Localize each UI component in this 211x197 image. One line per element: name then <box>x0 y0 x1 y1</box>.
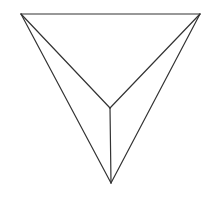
edge-b-d <box>110 14 200 108</box>
edge-a-c <box>21 14 111 183</box>
edge-a-d <box>21 14 110 108</box>
edges-group <box>21 14 200 183</box>
diagram-canvas <box>0 0 211 197</box>
tetrahedron-diagram <box>0 0 211 197</box>
edge-d-c <box>110 108 111 183</box>
edge-b-c <box>111 14 200 183</box>
